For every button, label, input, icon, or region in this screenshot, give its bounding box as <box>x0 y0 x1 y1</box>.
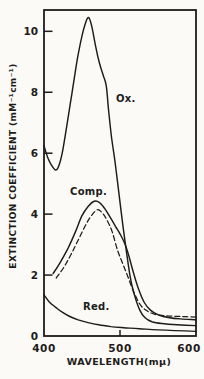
curve-oxidized <box>44 17 196 325</box>
curve-complex <box>53 201 196 320</box>
y-tick-label: 2 <box>31 269 38 281</box>
curve-label-reduced: Red. <box>83 301 110 312</box>
curve-label-oxidized: Ox. <box>116 93 136 104</box>
x-tick-label: 600 <box>177 342 200 354</box>
y-tick-label: 6 <box>31 147 38 159</box>
y-tick-label: 0 <box>31 330 38 342</box>
y-tick-label: 4 <box>31 208 38 220</box>
plot-frame <box>44 10 196 336</box>
y-axis-title: EXTINCTION COEFFICIENT (mM⁻¹cm⁻¹) <box>8 63 18 268</box>
curve-reduced <box>44 295 196 332</box>
x-tick-label: 400 <box>32 342 55 354</box>
curve-label-complex: Comp. <box>70 186 107 197</box>
y-tick-label: 8 <box>31 86 38 98</box>
extinction-spectra-figure: 0246810400500600 EXTINCTION COEFFICIENT … <box>0 0 204 379</box>
x-axis-title: WAVELENGTH(mμ) <box>34 356 204 367</box>
y-tick-label: 10 <box>23 25 38 37</box>
x-tick-label: 500 <box>108 342 131 354</box>
